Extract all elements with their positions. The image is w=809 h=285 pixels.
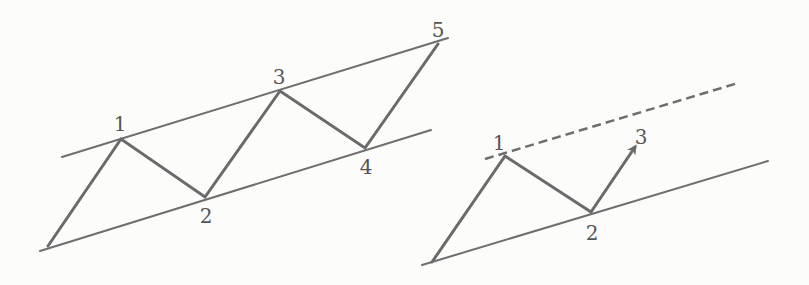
wave-label-1: 1 bbox=[493, 131, 506, 155]
wave-label-3: 3 bbox=[273, 65, 286, 89]
wave-label-2: 2 bbox=[586, 221, 599, 245]
lower-channel-line bbox=[40, 130, 431, 251]
wave-label-2: 2 bbox=[200, 204, 213, 228]
lower-channel-line bbox=[422, 161, 768, 265]
right-diagram: 1 2 3 bbox=[422, 83, 768, 265]
wave-label-4: 4 bbox=[360, 155, 373, 179]
projected-upper-channel-line bbox=[485, 83, 738, 159]
partial-wave-path bbox=[432, 156, 591, 262]
elliott-wave-channel-diagram: 1 2 3 4 5 1 2 3 bbox=[0, 0, 809, 285]
left-diagram: 1 2 3 4 5 bbox=[40, 18, 448, 251]
wave-label-3: 3 bbox=[635, 125, 648, 149]
wave-label-1: 1 bbox=[114, 112, 127, 136]
wave-label-5: 5 bbox=[432, 18, 445, 42]
